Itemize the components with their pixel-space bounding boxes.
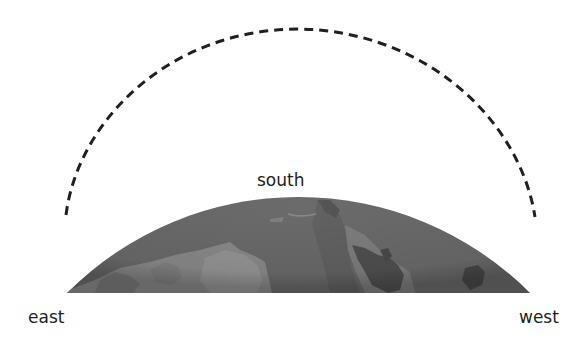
label-south: south (257, 172, 304, 189)
label-west: west (519, 309, 559, 326)
diagram-canvas: south east west (0, 0, 583, 340)
earth-globe-icon (60, 190, 540, 300)
label-east: east (28, 309, 64, 326)
